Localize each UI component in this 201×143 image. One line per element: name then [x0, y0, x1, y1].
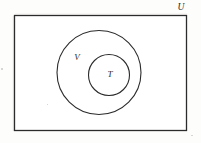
- scan-speck: [191, 135, 193, 136]
- scan-speck: [1, 68, 3, 70]
- venn-diagram-canvas: U V T: [0, 0, 201, 143]
- scan-speck: [47, 104, 48, 105]
- universal-set-label: U: [178, 2, 186, 12]
- venn-diagram-figure: U V T: [0, 0, 201, 143]
- universal-set-rectangle: [15, 16, 187, 131]
